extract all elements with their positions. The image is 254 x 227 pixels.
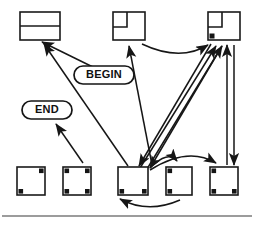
- diagram-canvas: BEGIN END: [0, 0, 254, 227]
- edge-node2-to-end: [56, 124, 83, 163]
- bottom-node-3[interactable]: [118, 167, 148, 195]
- corner-mark-bottom-right: [232, 189, 237, 194]
- corner-mark-bottom-left: [19, 189, 24, 194]
- edge-node4-to-node3: [120, 199, 180, 207]
- corner-mark-bottom-left: [120, 189, 125, 194]
- top-right-node[interactable]: [208, 12, 240, 40]
- end-label-text: END: [35, 103, 59, 115]
- corner-mark-bottom-right: [142, 189, 147, 194]
- corner-mark-top-left: [65, 169, 70, 174]
- corner-mark-top-right: [39, 169, 44, 174]
- top-left-node[interactable]: [20, 12, 60, 40]
- bottom-node-1[interactable]: [17, 167, 45, 195]
- edge-node3-to-topmiddle: [129, 46, 152, 165]
- top-middle-node[interactable]: [113, 12, 145, 40]
- diagram-svg: BEGIN END: [0, 0, 254, 227]
- corner-mark-bottom-left: [168, 189, 173, 194]
- edge-topmiddle-to-topright: [142, 44, 208, 53]
- edge-topmiddle-to-node3: [139, 44, 211, 166]
- bottom-node-5[interactable]: [210, 167, 238, 195]
- corner-mark-bottom-right: [85, 189, 90, 194]
- edge-node3-to-topright-a: [140, 46, 216, 168]
- bottom-node-4[interactable]: [166, 167, 192, 195]
- bottom-node-2[interactable]: [63, 167, 91, 195]
- end-label[interactable]: END: [22, 101, 72, 119]
- corner-mark-bottom-left: [212, 189, 217, 194]
- corner-mark-top-left: [212, 169, 217, 174]
- corner-mark-top-right: [85, 169, 90, 174]
- edge-topright-to-node3: [150, 46, 222, 168]
- corner-mark-bottom-left: [65, 189, 70, 194]
- begin-label-text: BEGIN: [86, 68, 122, 80]
- corner-mark-top-left: [168, 169, 173, 174]
- corner-mark-bottom-left: [210, 34, 215, 39]
- begin-label[interactable]: BEGIN: [74, 66, 134, 84]
